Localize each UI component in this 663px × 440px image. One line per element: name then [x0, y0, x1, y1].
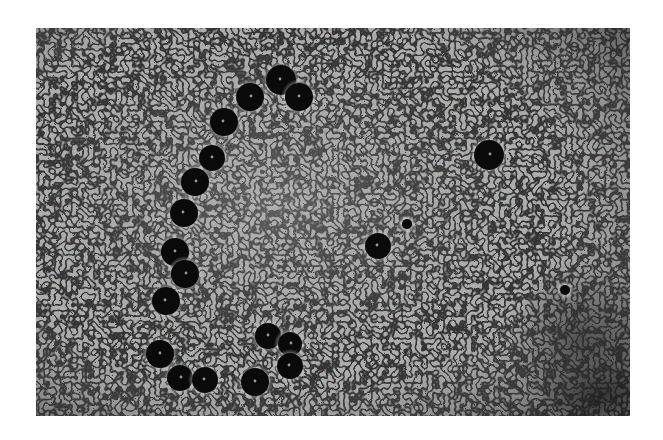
particle: [181, 168, 209, 196]
particle: [560, 285, 570, 295]
particle: [171, 260, 199, 288]
particle: [192, 367, 218, 393]
particle: [236, 83, 264, 111]
micrograph-image: [36, 28, 630, 416]
particle: [152, 287, 180, 315]
micrograph-canvas: [36, 28, 630, 416]
particle: [402, 219, 412, 229]
particle: [170, 199, 198, 227]
particle: [474, 140, 504, 170]
particle: [365, 233, 391, 259]
particle: [210, 108, 238, 136]
particle: [277, 353, 303, 379]
